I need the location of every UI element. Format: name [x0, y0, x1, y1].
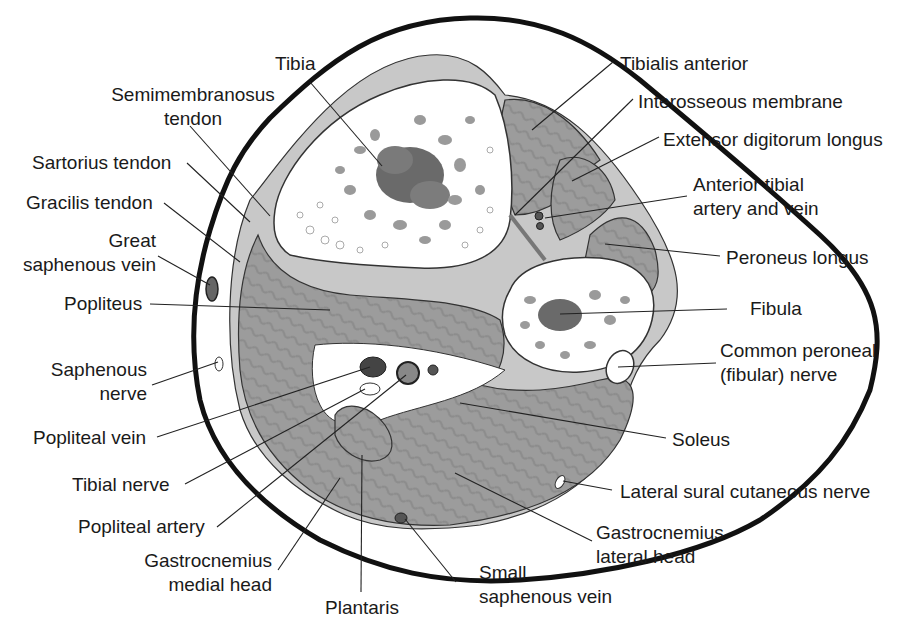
- small-saphenous-vein-shape: [395, 513, 407, 523]
- label-semimembranosus-line1: Semimembranosus: [95, 83, 291, 107]
- saphenous-nerve-shape: [215, 357, 223, 371]
- label-common-peroneal-line2: (fibular) nerve: [720, 363, 876, 387]
- anterior-tibial-vessel-shape: [535, 212, 543, 220]
- label-saphenous-nerve-line2: nerve: [10, 382, 147, 406]
- label-saphenous-nerve: Saphenous nerve: [10, 358, 147, 406]
- label-gastrocnemius-medial-head: Gastrocnemius medial head: [120, 549, 272, 597]
- label-popliteal-vein: Popliteal vein: [33, 426, 146, 450]
- label-gastroc-lateral-line1: Gastrocnemius: [596, 521, 724, 545]
- label-gracilis-tendon: Gracilis tendon: [26, 191, 153, 215]
- label-gastroc-medial-line1: Gastrocnemius: [120, 549, 272, 573]
- anterior-tibial-vessel-shape-2: [537, 223, 544, 230]
- great-saphenous-vein-shape: [206, 277, 218, 301]
- label-plantaris: Plantaris: [325, 596, 399, 620]
- label-great-saphenous-line2: saphenous vein: [10, 253, 156, 277]
- label-soleus: Soleus: [672, 428, 730, 452]
- label-extensor-digitorum-longus: Extensor digitorum longus: [663, 128, 883, 152]
- label-small-saphenous-vein: Small saphenous vein: [479, 561, 612, 609]
- label-gastroc-lateral-line2: lateral head: [596, 545, 724, 569]
- label-saphenous-nerve-line1: Saphenous: [10, 358, 147, 382]
- label-common-peroneal-nerve: Common peroneal (fibular) nerve: [720, 339, 876, 387]
- label-popliteus: Popliteus: [64, 292, 142, 316]
- label-gastroc-medial-line2: medial head: [120, 573, 272, 597]
- label-interosseous-membrane: Interosseous membrane: [638, 90, 843, 114]
- label-semimembranosus-tendon: Semimembranosus tendon: [95, 83, 291, 131]
- small-vessel-shape: [428, 365, 438, 375]
- label-lateral-sural-cutaneous-nerve: Lateral sural cutaneous nerve: [620, 480, 870, 504]
- label-semimembranosus-line2: tendon: [95, 107, 291, 131]
- label-peroneus-longus: Peroneus longus: [726, 246, 869, 270]
- label-sartorius-tendon: Sartorius tendon: [32, 151, 171, 175]
- label-fibula: Fibula: [750, 297, 802, 321]
- label-small-saphenous-line1: Small: [479, 561, 612, 585]
- label-common-peroneal-line1: Common peroneal: [720, 339, 876, 363]
- label-anterior-tibial-artery-vein: Anterior tibial artery and vein: [693, 173, 819, 221]
- label-anterior-tibial-line1: Anterior tibial: [693, 173, 819, 197]
- label-great-saphenous-vein: Great saphenous vein: [10, 229, 156, 277]
- label-tibialis-anterior: Tibialis anterior: [620, 52, 748, 76]
- label-gastrocnemius-lateral-head: Gastrocnemius lateral head: [596, 521, 724, 569]
- label-great-saphenous-line1: Great: [10, 229, 156, 253]
- label-small-saphenous-line2: saphenous vein: [479, 585, 612, 609]
- label-popliteal-artery: Popliteal artery: [78, 515, 205, 539]
- label-anterior-tibial-line2: artery and vein: [693, 197, 819, 221]
- label-tibial-nerve: Tibial nerve: [72, 473, 170, 497]
- popliteal-vein-shape: [360, 357, 386, 377]
- label-tibia: Tibia: [275, 52, 315, 76]
- popliteal-artery-shape: [397, 362, 419, 384]
- tibial-nerve-shape: [360, 383, 380, 395]
